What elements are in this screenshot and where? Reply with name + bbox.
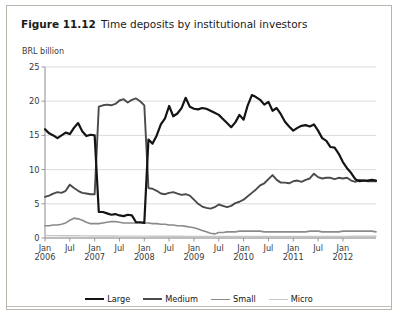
svg-text:2008: 2008 (134, 252, 155, 262)
legend-swatch-micro (269, 299, 288, 300)
figure-caption: Figure 11.12Time deposits by institution… (21, 18, 307, 30)
figure-number: Figure 11.12 (21, 18, 96, 30)
svg-text:Jan: Jan (137, 243, 151, 253)
svg-text:Jul: Jul (262, 243, 273, 253)
legend-label-micro: Micro (291, 294, 313, 304)
legend-label-large: Large (107, 294, 130, 304)
legend-label-medium: Medium (165, 294, 198, 304)
legend-item-medium[interactable]: Medium (143, 294, 198, 304)
svg-text:Jan: Jan (236, 243, 250, 253)
chart-plot-area: 0510152025 Jan2006JulJan2007JulJan2008Ju… (20, 61, 382, 266)
svg-text:Jul: Jul (114, 243, 125, 253)
figure-title: Time deposits by institutional investors (101, 18, 307, 30)
footer-divider (7, 306, 391, 307)
svg-text:Jan: Jan (336, 243, 350, 253)
x-axis-tick-labels: Jan2006JulJan2007JulJan2008JulJan2009Jul… (35, 243, 354, 263)
svg-text:Jan: Jan (286, 243, 300, 253)
svg-text:10: 10 (29, 165, 40, 175)
svg-text:2006: 2006 (35, 252, 56, 262)
svg-text:2011: 2011 (283, 252, 304, 262)
figure-card: Figure 11.12Time deposits by institution… (6, 5, 392, 310)
svg-text:Jan: Jan (87, 243, 101, 253)
svg-text:2007: 2007 (84, 252, 105, 262)
legend-swatch-small (211, 299, 230, 300)
line-chart-svg: 0510152025 Jan2006JulJan2007JulJan2008Ju… (20, 61, 382, 266)
svg-text:Jul: Jul (64, 243, 75, 253)
x-axis (45, 238, 376, 242)
legend-item-micro[interactable]: Micro (269, 294, 313, 304)
legend-swatch-large (85, 298, 104, 300)
svg-text:Jul: Jul (312, 243, 323, 253)
series-lines (45, 95, 376, 236)
y-axis-unit-label: BRL billion (22, 47, 64, 56)
svg-text:Jan: Jan (187, 243, 201, 253)
svg-text:2012: 2012 (332, 252, 353, 262)
svg-text:20: 20 (29, 96, 40, 106)
svg-text:Jul: Jul (213, 243, 224, 253)
legend-item-large[interactable]: Large (85, 294, 130, 304)
legend-label-small: Small (233, 294, 256, 304)
y-axis: 0510152025 (29, 62, 45, 243)
series-line-micro (45, 236, 376, 237)
chart-legend: Large Medium Small Micro (7, 294, 391, 304)
series-line-small (45, 218, 376, 234)
svg-text:5: 5 (34, 199, 39, 209)
svg-text:25: 25 (29, 62, 40, 72)
svg-text:0: 0 (34, 233, 39, 243)
legend-swatch-medium (143, 298, 162, 300)
svg-text:2010: 2010 (233, 252, 254, 262)
svg-text:2009: 2009 (184, 252, 205, 262)
svg-text:Jul: Jul (163, 243, 174, 253)
svg-text:Jan: Jan (38, 243, 52, 253)
svg-text:15: 15 (29, 130, 40, 140)
legend-item-small[interactable]: Small (211, 294, 256, 304)
